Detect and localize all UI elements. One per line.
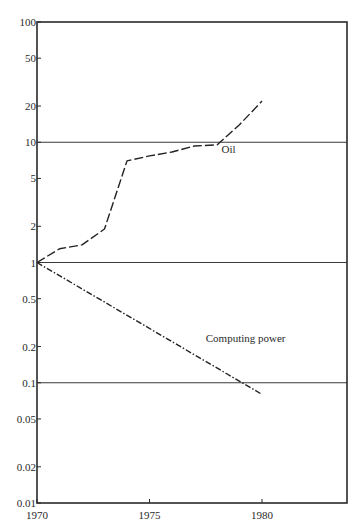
y-tick-label: 1: [31, 257, 37, 269]
series-labels: OilComputing power: [206, 143, 286, 344]
y-tick-label: 100: [20, 16, 37, 28]
series-label: Oil: [222, 143, 236, 155]
y-tick-label: 0.05: [17, 413, 37, 425]
series-line-oil: [37, 101, 262, 262]
y-tick-label: 20: [25, 100, 37, 112]
y-tick-label: 10: [25, 136, 37, 148]
y-tick-label: 50: [25, 52, 37, 64]
y-tick-label: 5: [31, 172, 37, 184]
reference-lines: [37, 142, 347, 383]
y-tick-label: 0.5: [22, 293, 36, 305]
x-tick-label: 1980: [251, 509, 274, 521]
y-tick-label: 2: [31, 220, 37, 232]
x-tick-label: 1975: [139, 509, 162, 521]
y-tick-label: 0.02: [17, 461, 36, 473]
line-chart: 1005020105210.50.20.10.050.020.01 197019…: [0, 0, 362, 524]
y-tick-label: 0.1: [22, 377, 36, 389]
series-line-computing-power: [37, 263, 262, 395]
x-tick-label: 1970: [26, 509, 49, 521]
y-tick-label: 0.2: [22, 341, 36, 353]
y-tick-label: 0.01: [17, 497, 36, 509]
series-label: Computing power: [206, 332, 286, 344]
